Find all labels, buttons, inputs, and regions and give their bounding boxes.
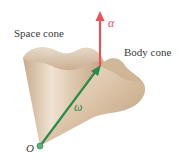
alpha-label: α: [108, 17, 114, 29]
body-cone-label: Body cone: [124, 47, 171, 58]
omega-label: ω: [74, 101, 82, 113]
cones-diagram: [0, 0, 181, 165]
space-cone-label: Space cone: [14, 28, 64, 39]
origin-dot: [37, 143, 43, 149]
alpha-arrowhead-icon: [96, 11, 105, 21]
origin-label: O: [26, 143, 34, 154]
